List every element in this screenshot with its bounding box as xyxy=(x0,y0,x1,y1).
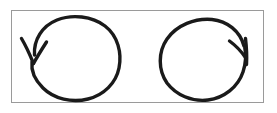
left-circle-stroke xyxy=(32,17,120,101)
arrowhead-up-right-barb-lower-right xyxy=(246,39,247,65)
arrowhead-down-left-barb-upper-left xyxy=(22,39,34,64)
left-circle-arrow-group xyxy=(22,17,120,101)
right-circle-stroke xyxy=(160,19,245,100)
right-circle-arrow-group xyxy=(160,19,246,100)
diagram-canvas xyxy=(0,0,277,113)
diagram-artwork xyxy=(0,0,277,113)
rotation-arrows-svg xyxy=(0,0,277,113)
